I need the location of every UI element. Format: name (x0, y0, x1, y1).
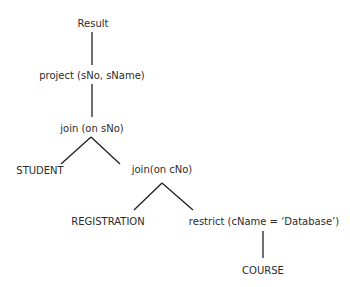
edge-join-sno-join-cno (91, 137, 120, 164)
edge-join-cno-restrict (162, 183, 193, 210)
node-restrict: restrict (cName = ‘Database’) (189, 216, 339, 227)
node-join-sno: join (on sNo) (59, 123, 124, 134)
node-registration: REGISTRATION (71, 216, 144, 227)
node-join-cno: join(on cNo) (131, 164, 193, 175)
query-tree-diagram: Result project (sNo, sName) join (on sNo… (0, 0, 350, 287)
node-course: COURSE (242, 265, 284, 276)
node-project: project (sNo, sName) (39, 70, 145, 81)
node-result: Result (78, 18, 109, 29)
edge-join-sno-student (61, 137, 91, 164)
edge-join-cno-registration (134, 183, 162, 210)
node-student: STUDENT (16, 165, 64, 176)
